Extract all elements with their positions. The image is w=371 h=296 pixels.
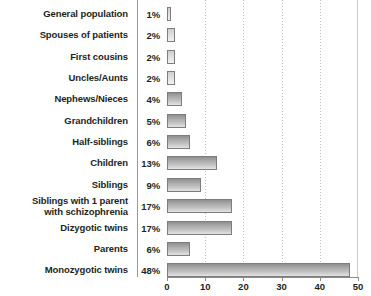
bar [167,263,350,277]
row-label: Dizygotic twins [0,222,128,233]
row-label: First cousins [0,51,128,62]
row-label: Grandchildren [0,116,128,127]
gridline [320,0,321,277]
bar [167,199,232,213]
row-value-label: 4% [140,94,160,105]
bar [167,28,175,42]
row-label: Siblings [0,180,128,191]
row-value-label: 2% [140,30,160,41]
row-value-label: 9% [140,179,160,190]
tick-label: 0 [152,281,182,292]
row-label: Children [0,158,128,169]
bar [167,242,190,256]
row-label-line2: with schizophrenia [44,205,128,216]
bar [167,135,190,149]
row-value-label: 6% [140,137,160,148]
gridline [205,0,206,277]
row-value-label: 17% [140,201,160,212]
row-value-label: 5% [140,115,160,126]
plot-right-border [357,0,358,277]
row-label-line1: Siblings with 1 parent [32,195,128,206]
bar-chart: General population1%Spouses of patients2… [0,0,371,296]
bar [167,7,171,21]
row-label: Spouses of patients [0,30,128,41]
label-value-divider [137,0,138,277]
bar [167,50,175,64]
row-label: Nephews/Nieces [0,94,128,105]
row-value-label: 6% [140,243,160,254]
bar [167,156,217,170]
row-label: Half-siblings [0,137,128,148]
row-value-label: 13% [140,158,160,169]
row-label: Parents [0,244,128,255]
row-label: Monozygotic twins [0,265,128,276]
bar [167,92,182,106]
tick-label: 30 [267,281,297,292]
gridline [282,0,283,277]
row-label: General population [0,9,128,20]
tick-label: 40 [305,281,335,292]
row-value-label: 48% [140,265,160,276]
row-value-label: 17% [140,222,160,233]
x-axis-line [167,277,359,278]
row-label: Uncles/Aunts [0,73,128,84]
gridline [243,0,244,277]
plot-area [167,0,358,277]
tick-label: 10 [190,281,220,292]
tick-label: 20 [228,281,258,292]
row-label: Siblings with 1 parentwith schizophrenia [0,196,128,217]
bar [167,178,201,192]
row-value-label: 2% [140,51,160,62]
row-value-label: 1% [140,9,160,20]
bar [167,114,186,128]
bar [167,71,175,85]
tick-label: 50 [343,281,371,292]
bar [167,221,232,235]
row-value-label: 2% [140,73,160,84]
